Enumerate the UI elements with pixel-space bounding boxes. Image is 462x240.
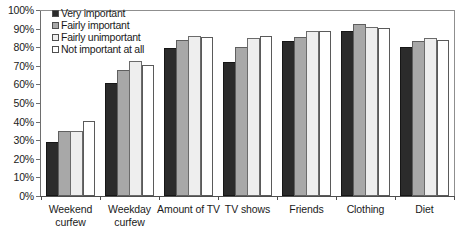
y-axis-tick-label: 10% [0,172,34,183]
bar [105,83,118,196]
y-axis-tick-mark [36,122,40,123]
legend-label: Fairly important [61,20,129,31]
bar [353,24,366,196]
y-axis-tick-mark [36,103,40,104]
bar [176,40,189,196]
legend-item: Not important at all [52,44,156,56]
bar [164,48,177,196]
bar-chart: 0%10%20%30%40%50%60%70%80%90%100% Weeken… [0,0,462,240]
x-axis-tick-mark [277,196,278,200]
x-axis-tick-mark [395,196,396,200]
bar-group [223,10,272,196]
y-axis-tick-mark [36,29,40,30]
y-axis-tick-label: 60% [0,79,34,90]
bar [282,41,295,196]
y-axis-tick-mark [36,159,40,160]
y-axis-tick-label: 30% [0,135,34,146]
y-axis-tick-mark [36,177,40,178]
x-axis-tick-mark [41,196,42,200]
x-axis-tick-mark [159,196,160,200]
bar [201,37,214,196]
x-axis-tick-mark [454,196,455,200]
bar [437,40,450,196]
bar [306,31,319,196]
x-axis-tick-mark [218,196,219,200]
bar [83,121,96,196]
y-axis-tick-mark [36,10,40,11]
bar [117,70,130,196]
bar [260,36,273,196]
y-axis-tick-mark [36,196,40,197]
x-axis-tick-mark [100,196,101,200]
legend-swatch-icon [52,46,59,53]
bar-group [400,10,449,196]
bar [46,142,59,196]
x-axis-category-label-line: curfew [90,216,169,229]
y-axis-tick-label: 100% [0,5,34,16]
y-axis-tick-mark [36,47,40,48]
x-axis-category-label-line: Diet [385,203,462,216]
legend-swatch-icon [52,34,59,41]
y-axis-tick-labels: 0%10%20%30%40%50%60%70%80%90%100% [0,0,34,240]
legend-label: Not important at all [61,44,144,55]
legend-item: Fairly unimportant [52,32,156,44]
bar [378,28,391,196]
bar [142,65,155,196]
bar [365,27,378,196]
bar [294,37,307,196]
bar [235,47,248,196]
bar [412,41,425,196]
x-axis-tick-mark [336,196,337,200]
bar-group [341,10,390,196]
bar [188,36,201,196]
bar [424,38,437,196]
y-axis-tick-label: 0% [0,191,34,202]
y-axis-tick-label: 20% [0,153,34,164]
bar [58,131,71,196]
x-axis-line [40,196,455,197]
bar [223,62,236,196]
bar [400,47,413,196]
legend-swatch-icon [52,22,59,29]
y-axis-tick-label: 90% [0,23,34,34]
y-axis-tick-mark [36,140,40,141]
y-axis-tick-label: 70% [0,60,34,71]
y-axis-tick-label: 80% [0,42,34,53]
y-axis-tick-mark [36,66,40,67]
bar [319,31,332,196]
bar [341,31,354,196]
x-axis-category-label: Diet [385,203,462,216]
legend-label: Very important [61,8,125,19]
chart-legend: Very importantFairly importantFairly uni… [52,8,156,56]
y-axis-tick-mark [36,84,40,85]
legend-item: Fairly important [52,20,156,32]
bar [129,61,142,196]
legend-swatch-icon [52,10,59,17]
legend-item: Very important [52,8,156,20]
legend-label: Fairly unimportant [61,32,141,43]
bar-group [282,10,331,196]
bar-group [164,10,213,196]
bar [70,131,83,196]
y-axis-tick-label: 50% [0,98,34,109]
y-axis-tick-label: 40% [0,116,34,127]
bar [247,38,260,196]
